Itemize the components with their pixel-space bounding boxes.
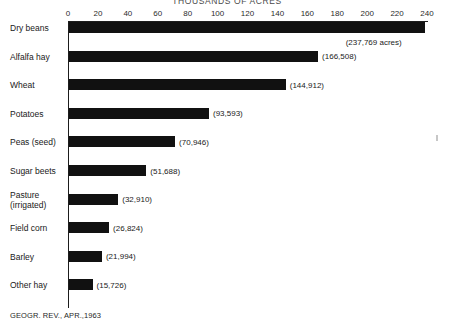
bar-chart: THOUSANDS OF ACRES 020406080100120140160… xyxy=(0,0,454,330)
bar xyxy=(69,108,209,119)
bar xyxy=(69,79,286,90)
bar xyxy=(69,251,102,262)
bar-row: Sugar beets(51,688) xyxy=(0,165,454,191)
scan-artifact-speck xyxy=(436,135,438,141)
bar xyxy=(69,136,175,147)
bar-value-label: (70,946) xyxy=(179,138,209,147)
bar-row: Dry beans(237,769 acres) xyxy=(0,22,454,48)
bar-value-label: (26,824) xyxy=(113,224,143,233)
bar-value-label: (51,688) xyxy=(150,167,180,176)
bar xyxy=(69,194,118,205)
bar-row: Peas (seed)(70,946) xyxy=(0,136,454,162)
bar-value-label: (144,912) xyxy=(290,81,324,90)
bar-value-label: (237,769 acres) xyxy=(346,38,402,47)
bar-row: Pasture (irrigated)(32,910) xyxy=(0,194,454,220)
bar-row: Alfalfa hay(166,508) xyxy=(0,51,454,77)
bar-row: Wheat(144,912) xyxy=(0,79,454,105)
bar xyxy=(69,279,93,290)
bar-row: Potatoes(93,593) xyxy=(0,108,454,134)
bar-value-label: (32,910) xyxy=(122,195,152,204)
bar-rows: Dry beans(237,769 acres)Alfalfa hay(166,… xyxy=(0,0,454,330)
bar-value-label: (93,593) xyxy=(213,109,243,118)
bar xyxy=(69,165,146,176)
bar xyxy=(69,222,109,233)
bar-row: Other hay(15,726) xyxy=(0,279,454,305)
bar-value-label: (21,994) xyxy=(106,252,136,261)
bar-row: Field corn(26,824) xyxy=(0,222,454,248)
bar-value-label: (15,726) xyxy=(97,281,127,290)
bar-value-label: (166,508) xyxy=(322,52,356,61)
bar xyxy=(69,51,318,62)
bar xyxy=(69,22,425,33)
source-note: GEOGR. REV., APR.,1963 xyxy=(10,311,101,320)
bar-row: Barley(21,994) xyxy=(0,251,454,277)
